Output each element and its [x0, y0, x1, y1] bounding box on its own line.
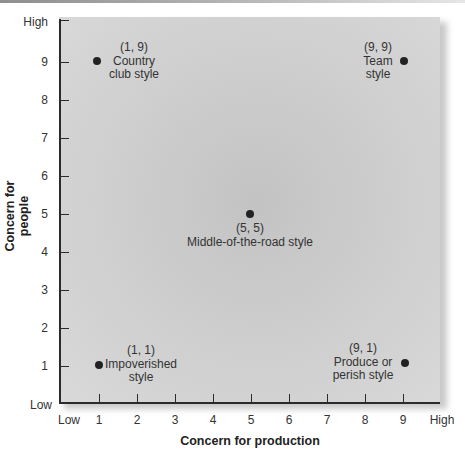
x-label-4: 4 — [198, 413, 228, 427]
point-label-middle-of-the-road: (5, 5) Middle-of-the-road style — [180, 222, 320, 249]
data-point-produce-or-perish — [401, 359, 409, 367]
point-label-produce-or-perish: (9, 1) Produce or perish style — [328, 342, 398, 383]
x-tick-2 — [137, 394, 138, 402]
x-label-low: Low — [54, 413, 84, 427]
y-tick-6 — [61, 176, 69, 177]
point-coord: (9, 9) — [358, 41, 398, 55]
data-point-impoverished — [95, 361, 103, 369]
x-label-5: 5 — [236, 413, 266, 427]
x-axis-title: Concern for production — [0, 434, 465, 448]
x-label-8: 8 — [350, 413, 380, 427]
x-label-3: 3 — [160, 413, 190, 427]
point-label-line: Country — [104, 55, 164, 69]
y-label-3: 3 — [8, 283, 48, 297]
x-label-9: 9 — [388, 413, 418, 427]
y-tick-9 — [61, 62, 69, 63]
point-coord: (1, 9) — [104, 41, 164, 55]
point-label-country-club: (1, 9) Country club style — [104, 41, 164, 82]
y-axis-line — [59, 19, 61, 404]
x-label-7: 7 — [312, 413, 342, 427]
data-point-country-club — [93, 57, 101, 65]
point-label-line: style — [358, 68, 398, 82]
y-tick-5 — [61, 214, 69, 215]
y-tick-3 — [61, 290, 69, 291]
point-label-line: Team — [358, 55, 398, 69]
y-tick-7 — [61, 138, 69, 139]
point-label-line: Middle-of-the-road style — [180, 236, 320, 250]
x-label-1: 1 — [84, 413, 114, 427]
x-tick-8 — [365, 394, 366, 402]
x-label-high: High — [422, 413, 462, 427]
point-label-line: Produce or — [328, 356, 398, 370]
x-tick-4 — [213, 394, 214, 402]
point-label-line: perish style — [328, 369, 398, 383]
point-coord: (9, 1) — [328, 342, 398, 356]
point-label-line: club style — [104, 68, 164, 82]
x-tick-9 — [403, 394, 404, 402]
y-label-2: 2 — [8, 321, 48, 335]
point-label-line: style — [104, 371, 178, 385]
x-tick-5 — [251, 394, 252, 402]
x-tick-1 — [99, 394, 100, 402]
x-tick-3 — [175, 394, 176, 402]
y-label-9: 9 — [8, 55, 48, 69]
y-tick-4 — [61, 252, 69, 253]
point-label-impoverished: (1, 1) Impoverished style — [104, 344, 178, 385]
top-border — [0, 0, 465, 3]
point-label-line: Impoverished — [104, 358, 178, 372]
x-tick-7 — [327, 394, 328, 402]
y-tick-2 — [61, 328, 69, 329]
x-label-6: 6 — [274, 413, 304, 427]
x-label-2: 2 — [122, 413, 152, 427]
x-axis-line — [59, 402, 440, 404]
data-point-team — [400, 57, 408, 65]
point-label-team: (9, 9) Team style — [358, 41, 398, 82]
y-label-low: Low — [12, 398, 52, 412]
y-tick-1 — [61, 366, 69, 367]
y-label-7: 7 — [8, 131, 48, 145]
y-tick-8 — [61, 100, 69, 101]
y-axis-title: Concern for people — [3, 161, 31, 271]
y-tick-high — [61, 20, 69, 21]
y-label-1: 1 — [8, 359, 48, 373]
data-point-middle-of-the-road — [246, 210, 254, 218]
point-coord: (1, 1) — [104, 344, 178, 358]
y-label-high: High — [8, 15, 48, 29]
x-tick-6 — [289, 394, 290, 402]
y-label-8: 8 — [8, 93, 48, 107]
point-coord: (5, 5) — [180, 222, 320, 236]
